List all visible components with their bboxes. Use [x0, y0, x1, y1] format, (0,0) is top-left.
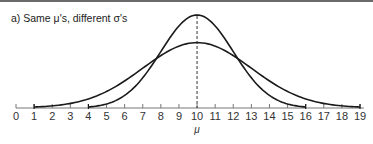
x-tick-label: 5 [103, 110, 109, 122]
x-tick-label: 8 [158, 110, 164, 122]
x-tick-label: 11 [209, 110, 220, 122]
x-tick-label: 4 [85, 110, 91, 122]
x-tick-label: 9 [176, 110, 182, 122]
x-tick-label: 17 [318, 110, 330, 122]
x-tick-label: 7 [140, 110, 146, 122]
x-tick-label: 2 [49, 110, 55, 122]
normal-curves-plot: 012345678910111213141516171819μ [0, 0, 373, 144]
mu-axis-label: μ [193, 124, 200, 135]
x-tick-label: 15 [281, 110, 293, 122]
x-tick-label: 14 [263, 110, 275, 122]
x-tick-label: 10 [191, 110, 203, 122]
x-tick-label: 19 [354, 110, 366, 122]
x-tick-label: 13 [245, 110, 257, 122]
x-tick-label: 12 [227, 110, 239, 122]
x-tick-label: 18 [336, 110, 348, 122]
x-tick-label: 1 [31, 110, 37, 122]
x-tick-label: 3 [67, 110, 73, 122]
x-tick-label: 0 [13, 110, 19, 122]
x-tick-label: 16 [300, 110, 312, 122]
x-tick-label: 6 [122, 110, 128, 122]
